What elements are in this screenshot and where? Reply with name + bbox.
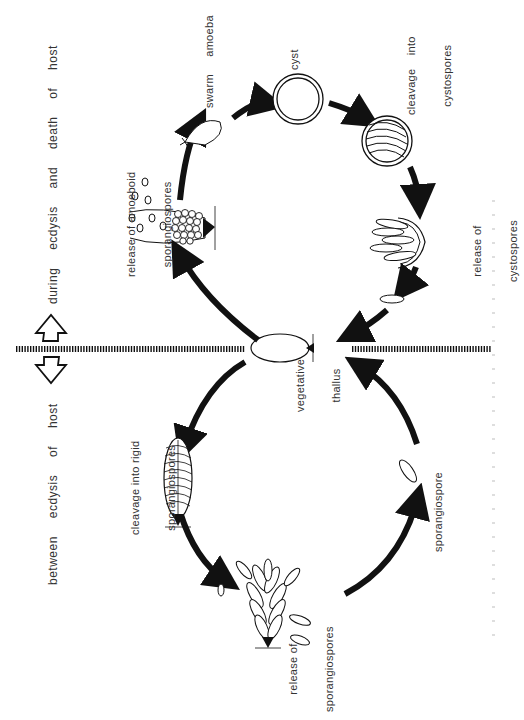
label-vegetative-thallus: vegetative thallus bbox=[270, 359, 354, 412]
label-cleavage-rigid: cleavage into rigid sporangiospores bbox=[105, 441, 189, 535]
cycle-arrow bbox=[360, 366, 417, 444]
vegetative-thallus-icon bbox=[251, 334, 314, 362]
cystospores-release-icon bbox=[370, 217, 425, 268]
cycle-arrow bbox=[345, 500, 417, 594]
cycle-arrow bbox=[352, 310, 387, 334]
cystospore-icon bbox=[380, 295, 404, 303]
cycle-arrow bbox=[233, 103, 268, 118]
cystospores-cleavage-icon bbox=[362, 116, 412, 166]
cyst-icon bbox=[273, 74, 323, 124]
cycle-arrow bbox=[185, 362, 245, 445]
figure-caption-faint bbox=[492, 200, 495, 640]
label-swarm-amoeba: swarm amoeba bbox=[203, 15, 215, 108]
swarm-amoeba-icon bbox=[180, 121, 221, 147]
label-release-amoeboid: release of amoeboid sporangiospores bbox=[101, 172, 185, 277]
label-release-sporangiospores: release of sporangiospores bbox=[263, 626, 347, 712]
label-cyst: cyst bbox=[288, 49, 300, 70]
label-release-cystospores: release of cystospores bbox=[447, 220, 524, 282]
cycle-arrow bbox=[404, 267, 416, 288]
phase-label-upper: during ecdysis and death of host bbox=[46, 45, 60, 304]
arrow-down-icon bbox=[36, 357, 66, 383]
sporangiospore-icon bbox=[396, 457, 419, 484]
phase-label-lower: between ecdysis of host bbox=[46, 403, 60, 585]
label-sporangiospore: sporangiospore bbox=[432, 472, 444, 552]
arrow-up-icon bbox=[36, 315, 66, 341]
cycle-arrow bbox=[180, 255, 258, 340]
cycle-arrow bbox=[329, 103, 365, 118]
label-cleavage-cystospores: cleavage into cystospores bbox=[381, 36, 465, 115]
cycle-arrow bbox=[410, 167, 419, 202]
